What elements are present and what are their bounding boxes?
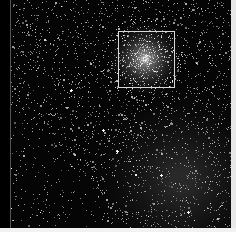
cluster-highlight-box bbox=[118, 31, 175, 88]
side-label-strip bbox=[0, 0, 10, 232]
right-border bbox=[231, 0, 236, 232]
bottom-border bbox=[0, 228, 236, 232]
